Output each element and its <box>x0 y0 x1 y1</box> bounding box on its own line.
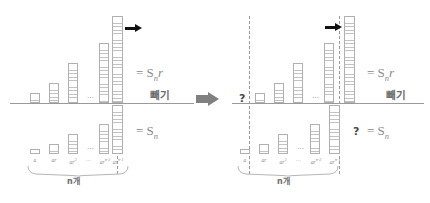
bar-upper-6-r <box>344 16 355 103</box>
term-label-1-r: a <box>235 158 255 164</box>
ellipsis-upper: ⋯ <box>87 95 95 102</box>
equation-upper-r: = Snr <box>367 66 394 82</box>
bar-upper-2-r <box>274 83 284 103</box>
question-mark-lower: ? <box>353 126 359 137</box>
bar-upper-3-r <box>293 63 303 103</box>
transition-arrow <box>196 92 220 106</box>
bar-lower-6 <box>112 105 123 154</box>
bar-lower-1 <box>30 149 40 154</box>
equation-upper-tail: r <box>158 65 163 80</box>
equation-upper: = Snr <box>136 66 163 82</box>
term-label-2-r: ar <box>254 158 274 164</box>
panel-before: ⋯ = Snr 빼기 ⋯ = Sn a ar ar2 ⋯ arn-2 arn-1 <box>4 0 204 203</box>
equation-upper-tail-r: r <box>389 65 394 80</box>
term-label-1-text: a <box>34 157 37 163</box>
operation-label-r: 빼기 <box>386 90 406 101</box>
term-label-1-r-text: a <box>244 157 247 163</box>
equation-lower-lhs: = S <box>136 123 154 138</box>
equation-lower: = Sn <box>136 124 158 140</box>
bar-lower-2-r <box>259 144 269 154</box>
count-label: n개 <box>67 178 80 186</box>
equation-lower-r: = Sn <box>367 124 389 140</box>
bar-upper-2 <box>49 83 59 103</box>
term-label-2: ar <box>44 158 64 164</box>
equation-lower-lhs-r: = S <box>367 123 385 138</box>
shift-right-arrow <box>125 24 142 33</box>
count-brace <box>26 165 130 177</box>
bar-upper-5-r <box>324 43 334 103</box>
arrow-head <box>135 24 142 32</box>
arrow-head-r <box>335 23 342 31</box>
transition-arrow-head <box>208 92 219 106</box>
ellipsis-upper-r: ⋯ <box>312 95 320 102</box>
shift-right-arrow-r <box>325 23 342 32</box>
bar-lower-1-r <box>240 149 250 154</box>
count-label-r: n개 <box>277 178 290 186</box>
bar-lower-6-r <box>329 105 340 154</box>
ellipsis-lower-r: ⋯ <box>297 146 305 153</box>
equation-upper-lhs-r: = S <box>367 65 385 80</box>
bar-upper-1-r <box>255 93 265 103</box>
bar-lower-3-r <box>278 134 288 154</box>
count-brace-r <box>236 165 340 177</box>
bar-lower-5-r <box>310 124 320 154</box>
bar-upper-6 <box>112 16 123 103</box>
question-mark-upper: ? <box>239 93 245 104</box>
bar-lower-5 <box>99 124 109 154</box>
bar-upper-3 <box>68 63 78 103</box>
equation-upper-lhs: = S <box>136 65 154 80</box>
axis-line <box>10 103 194 104</box>
panel-after: ? ⋯ = Snr 빼기 ⋯ ? = Sn a ar ar2 <box>226 0 426 203</box>
equation-lower-sub: n <box>154 131 158 141</box>
bar-upper-1 <box>30 93 40 103</box>
bar-lower-3 <box>68 134 78 154</box>
ellipsis-lower: ⋯ <box>87 146 95 153</box>
axis-line-r <box>232 103 424 104</box>
figure-canvas: ⋯ = Snr 빼기 ⋯ = Sn a ar ar2 ⋯ arn-2 arn-1 <box>0 0 430 203</box>
bar-upper-5 <box>99 43 109 103</box>
equation-lower-sub-r: n <box>385 131 389 141</box>
operation-label: 빼기 <box>150 90 170 101</box>
term-label-1: a <box>25 158 45 164</box>
bar-lower-2 <box>49 144 59 154</box>
